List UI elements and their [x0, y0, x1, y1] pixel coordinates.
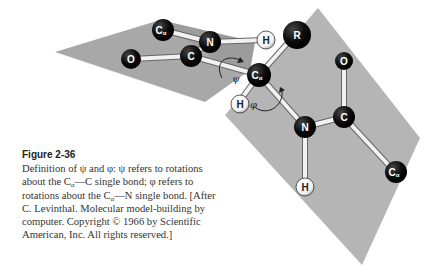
atom-c-left: C: [180, 45, 202, 67]
atom-ca-center: Cα: [247, 63, 271, 87]
svg-text:N: N: [206, 37, 213, 48]
atom-ca-right: Cα: [385, 161, 407, 183]
atom-h-bottom: H: [296, 178, 314, 196]
atom-o-left: O: [121, 49, 141, 69]
atom-c-right: C: [333, 106, 355, 128]
atom-h-center: H: [231, 95, 249, 113]
atom-h-top: H: [257, 31, 275, 49]
figure-caption: Figure 2-36 Definition of ψ and φ: ψ ref…: [22, 148, 227, 241]
right-peptide-plane: [225, 8, 420, 265]
svg-text:C: C: [187, 51, 194, 62]
svg-text:C: C: [340, 112, 347, 123]
svg-text:O: O: [127, 54, 135, 65]
svg-text:N: N: [301, 122, 308, 133]
psi-label: ψ: [232, 73, 240, 84]
figure-title: Figure 2-36: [22, 148, 227, 161]
atom-r: R: [283, 21, 311, 49]
svg-text:R: R: [293, 30, 301, 41]
svg-text:H: H: [301, 182, 308, 193]
atom-ca-left: Cα: [152, 19, 174, 41]
phi-label: φ: [250, 99, 257, 110]
atom-n-right: N: [294, 116, 316, 138]
svg-text:H: H: [236, 99, 243, 110]
svg-text:H: H: [262, 35, 269, 46]
atom-n-left: N: [199, 31, 221, 53]
caption-text: Definition of ψ and φ: ψ refers to rotat…: [22, 162, 227, 241]
atom-o-right: O: [335, 52, 353, 70]
svg-text:O: O: [340, 56, 348, 67]
